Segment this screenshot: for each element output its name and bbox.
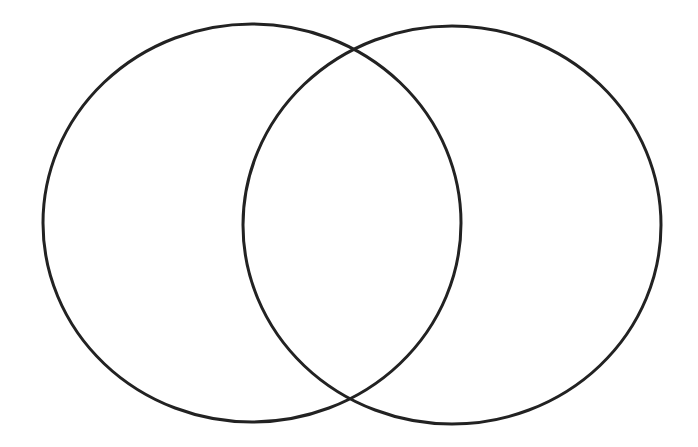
venn-diagram-svg xyxy=(0,0,698,447)
venn-diagram xyxy=(0,0,698,447)
right-set-circle xyxy=(243,26,661,424)
left-set-circle xyxy=(43,24,461,422)
